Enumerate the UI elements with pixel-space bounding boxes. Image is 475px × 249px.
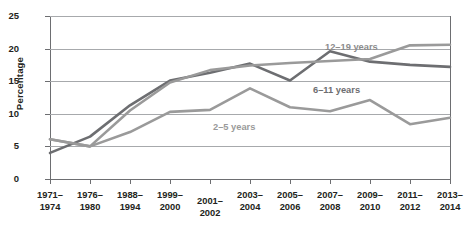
series-label: 2–5 years bbox=[213, 122, 255, 132]
line-chart: Percentage 0510152025 1971–19741976–1980… bbox=[0, 0, 475, 249]
series-label: 12–19 years bbox=[325, 42, 378, 52]
series-label: 6–11 years bbox=[313, 85, 360, 95]
series-line bbox=[50, 88, 450, 146]
